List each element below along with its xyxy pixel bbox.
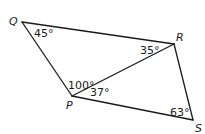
vertex-label-q: Q (9, 15, 18, 28)
vertex-label-s: S (195, 122, 202, 134)
angle-label-p-lower: 37° (90, 86, 110, 99)
angle-label-s: 63° (170, 106, 190, 119)
vertex-label-p: P (66, 99, 73, 112)
vertex-label-r: R (176, 31, 184, 44)
angle-label-r: 35° (140, 44, 160, 57)
quadrilateral-diagram: Q R S P 45° 35° 100° 37° 63° (0, 0, 205, 134)
angle-label-q: 45° (34, 27, 54, 40)
